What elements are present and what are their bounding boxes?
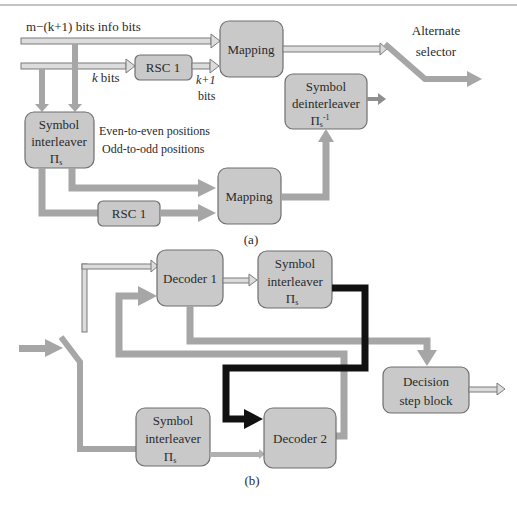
mapping-to-deinterleaver-arrow <box>281 129 334 197</box>
decoder2-label: Decoder 2 <box>273 431 327 446</box>
bits-label: bits <box>198 89 216 103</box>
deinterleaver-line2: deinterleaver <box>292 96 361 111</box>
decoder1-to-interleaver-arrow <box>223 274 257 286</box>
turbo-coding-diagram: m−(k+1) bits info bits kbits RSC 1 k+1 b… <box>0 0 517 509</box>
caption-b: (b) <box>244 473 259 488</box>
interleaver-b-bottom-line1: Symbol <box>153 413 194 428</box>
mapping-to-selector-arrow <box>283 43 387 55</box>
deinterleaver-line1: Symbol <box>306 79 347 94</box>
decision-output-arrow <box>469 383 505 395</box>
interleaver-b-top-line1: Symbol <box>275 256 316 271</box>
deinterleaver-output-arrow <box>367 93 386 105</box>
k-plus-1-label: k+1 <box>196 73 215 87</box>
rsc1-top-label: RSC 1 <box>146 60 180 75</box>
tap-arrows-to-interleaver <box>35 44 82 112</box>
interleaver-b-top-line2: interleaver <box>267 274 323 289</box>
decision-line2: step block <box>399 393 453 408</box>
interleaver-a-line2: interleaver <box>31 134 87 149</box>
selector-label: selector <box>416 44 457 59</box>
caption-a: (a) <box>244 232 258 247</box>
rsc1-bottom-label: RSC 1 <box>112 206 146 221</box>
interleaver-to-decoder2-arrow <box>210 449 265 459</box>
rsc-to-mapping-bottom-arrow <box>160 204 216 222</box>
rsc-to-mapping-arrow <box>192 59 219 73</box>
info-bits-label: m−(k+1) bits info bits <box>26 19 141 34</box>
even-positions-note: Even-to-even positions <box>99 124 210 138</box>
decision-line1: Decision <box>403 374 450 389</box>
odd-positions-note: Odd-to-odd positions <box>102 142 205 156</box>
alternate-label: Alternate <box>412 23 461 38</box>
interleaver-a-line1: Symbol <box>39 117 80 132</box>
k-bits-label: kbits <box>92 70 120 85</box>
interleaver-b-bottom-line2: interleaver <box>145 431 201 446</box>
decoder1-label: Decoder 1 <box>163 271 217 286</box>
interleaver-to-mapping-arrow <box>72 168 216 197</box>
info-bits-arrow <box>21 34 220 48</box>
mapping-top-label: Mapping <box>228 42 275 57</box>
mapping-bottom-label: Mapping <box>226 189 273 204</box>
